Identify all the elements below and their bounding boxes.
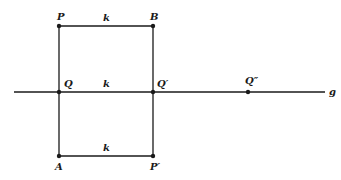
point-P — [57, 24, 61, 28]
point-P-prime — [151, 154, 155, 158]
label-k-top: k — [103, 12, 110, 23]
label-P-prime: P′ — [149, 161, 161, 172]
label-Q-double-prime: Q″ — [245, 75, 259, 86]
point-Q — [57, 90, 61, 94]
label-Q: Q — [64, 78, 73, 89]
label-A: A — [54, 161, 63, 172]
label-k-middle: k — [103, 78, 110, 89]
label-B: B — [149, 11, 158, 22]
point-A — [57, 154, 61, 158]
label-P: P — [56, 11, 65, 22]
point-Q-double-prime — [246, 90, 250, 94]
point-Q-prime — [151, 90, 155, 94]
label-k-bottom: k — [103, 142, 110, 153]
label-g: g — [329, 86, 336, 97]
point-B — [151, 24, 155, 28]
label-Q-prime: Q′ — [157, 78, 169, 89]
geometry-diagram: P B Q Q′ Q″ A P′ g k k k — [0, 0, 341, 180]
